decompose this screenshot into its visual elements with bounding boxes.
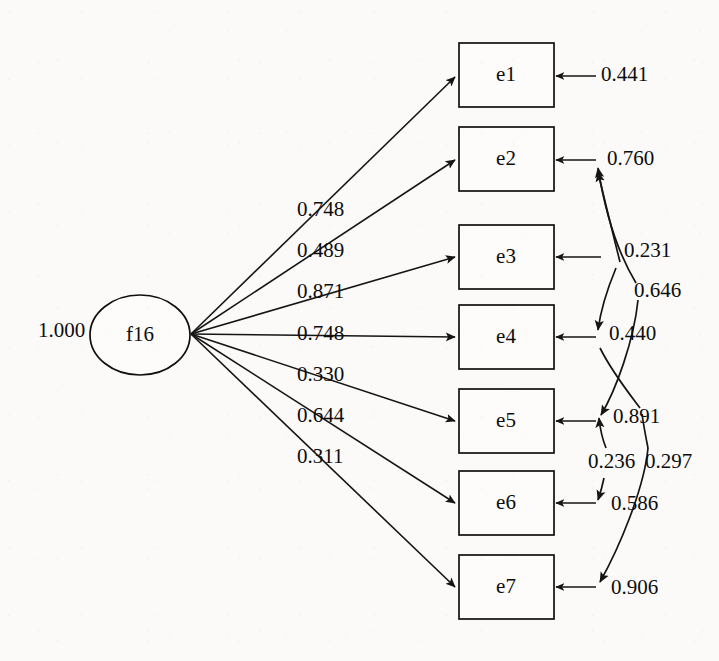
residual-label-e1: 0.441 [601,62,648,86]
correlation-arc-e6-0236[interactable] [598,478,604,500]
indicator-node-e6[interactable]: e6 [459,471,554,535]
residual-label-e2: 0.760 [607,146,654,170]
residual-label-e6: 0.586 [611,491,658,515]
indicator-label-e4: e4 [496,324,516,348]
indicator-node-e5[interactable]: e5 [459,389,554,453]
sem-path-diagram: f16 1.000 0.748 0.489 0.871 0.748 0.330 … [0,0,719,661]
loading-label-e5: 0.330 [297,362,344,386]
indicator-label-e3: e3 [496,244,516,268]
diagram-canvas: f16 1.000 0.748 0.489 0.871 0.748 0.330 … [0,0,719,661]
loading-label-e7: 0.311 [297,444,343,468]
indicator-label-e6: e6 [496,490,516,514]
indicator-node-e3[interactable]: e3 [459,225,554,289]
latent-label-f16: f16 [126,322,154,346]
correlation-arc-e4-down[interactable] [600,348,640,408]
correlation-arc-e5-0236[interactable] [599,418,606,448]
indicator-node-e4[interactable]: e4 [459,305,554,369]
indicator-node-e1[interactable]: e1 [459,43,554,107]
correlation-arcs-group [598,168,648,582]
residual-label-e5: 0.891 [613,404,660,428]
loading-label-e2: 0.489 [297,238,344,262]
loading-label-e6: 0.644 [297,403,345,427]
loading-label-e1: 0.748 [297,197,344,221]
indicator-node-e7[interactable]: e7 [459,555,554,619]
latent-variance-label: 1.000 [38,318,85,342]
indicator-node-e2[interactable]: e2 [459,127,554,191]
correlation-arc-e2-0646[interactable] [598,168,636,283]
residual-label-e3: 0.231 [624,238,671,262]
indicator-label-e2: e2 [496,146,516,170]
latent-variable-f16[interactable]: f16 [90,295,190,375]
indicator-label-e5: e5 [496,408,516,432]
residual-label-e7: 0.906 [611,575,658,599]
residual-label-e4: 0.440 [609,321,656,345]
loading-label-e4: 0.748 [297,321,344,345]
correlation-label-0646: 0.646 [634,278,681,302]
residual-arrows-group [556,76,601,587]
correlation-arc-e2-0231[interactable] [598,172,620,262]
indicator-label-e7: e7 [496,574,516,598]
indicator-boxes-group: e1 e2 e3 e4 e5 e6 [459,43,554,619]
correlation-label-0236: 0.236 [588,449,635,473]
indicator-label-e1: e1 [496,62,516,86]
correlation-label-0297: 0.297 [645,449,692,473]
residual-labels-group: 0.441 0.760 0.231 0.646 0.440 0.891 0.23… [588,62,692,599]
loading-label-e3: 0.871 [297,279,344,303]
